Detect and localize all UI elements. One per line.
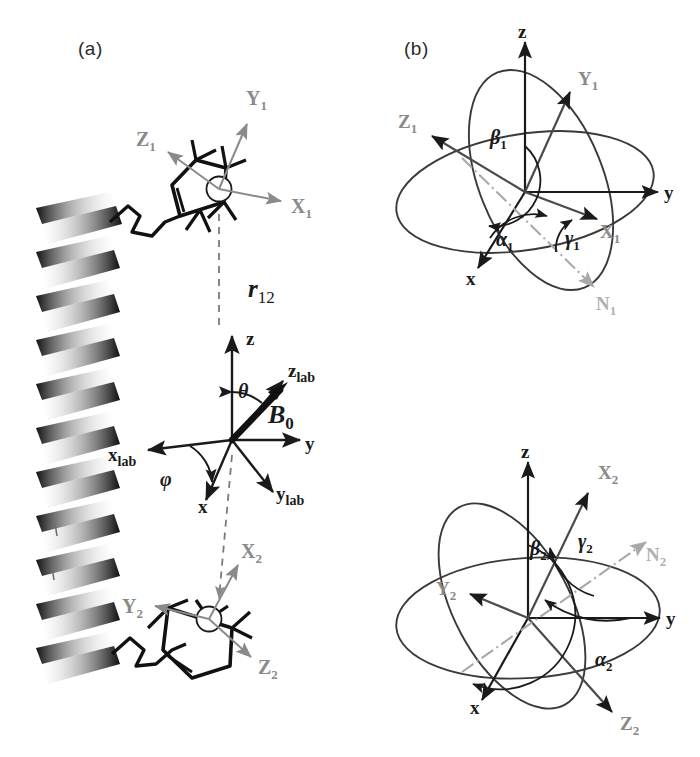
axis-label-b1-y: y bbox=[664, 182, 674, 203]
axis-label-b2-Z2: Z2 bbox=[620, 713, 639, 738]
phi-arc bbox=[190, 446, 212, 482]
axis-label-y-lab: ylab bbox=[276, 483, 304, 508]
axis-label-b2-x: x bbox=[470, 697, 480, 718]
node-line-1 bbox=[462, 158, 594, 287]
axis-label-z: z bbox=[246, 328, 255, 349]
r12-label: r12 bbox=[248, 275, 275, 307]
ellipse-molecular-plane-2 bbox=[408, 480, 616, 732]
euler-frame-2 bbox=[392, 462, 664, 732]
axis-label-y: y bbox=[305, 433, 315, 454]
field-label-B0: B0 bbox=[267, 400, 294, 433]
axis-label-b2-z: z bbox=[521, 441, 530, 462]
axis-label-b2-N2: N2 bbox=[646, 544, 666, 569]
axis-label-X1: X1 bbox=[291, 195, 312, 221]
angle-label-beta2: β2 bbox=[529, 537, 547, 563]
axis-label-X2: X2 bbox=[241, 540, 262, 566]
axis-label-b1-Z1: Z1 bbox=[398, 111, 417, 136]
figure-root: (a) (b) bbox=[0, 0, 700, 757]
angle-label-phi: φ bbox=[160, 468, 172, 491]
nitroxide-label-2 bbox=[112, 565, 252, 678]
axis-label-z-lab: zlab bbox=[288, 360, 315, 385]
axis-label-b2-X2: X2 bbox=[598, 462, 618, 487]
axis-label-x-lab: xlab bbox=[108, 444, 136, 469]
axis-label-b1-Y1: Y1 bbox=[578, 68, 598, 93]
axis-label-Y1: Y1 bbox=[246, 87, 267, 113]
axis-label-Y2: Y2 bbox=[122, 595, 143, 621]
axis-label-Z1: Z1 bbox=[136, 128, 156, 154]
axis-label-b1-z: z bbox=[518, 21, 527, 42]
r12-connector bbox=[219, 214, 232, 598]
angle-label-alpha2: α2 bbox=[595, 648, 613, 674]
angle-label-beta1: β1 bbox=[489, 126, 507, 152]
axis-label-b1-N1: N1 bbox=[596, 293, 616, 318]
angle-label-gamma1: γ1 bbox=[565, 227, 580, 253]
axis-label-b2-y: y bbox=[666, 608, 676, 629]
axis-label-b1-x: x bbox=[466, 268, 476, 289]
axis-label-Z2: Z2 bbox=[258, 656, 278, 682]
axis-label-b1-X1: X1 bbox=[600, 221, 620, 246]
angle-label-alpha1: α1 bbox=[496, 228, 514, 254]
angle-label-gamma2: γ2 bbox=[578, 530, 593, 556]
figure-canvas: X1 Y1 Z1 r12 z y x bbox=[0, 0, 700, 757]
dna-duplex-ribbon bbox=[36, 192, 122, 684]
angle-label-theta: θ bbox=[238, 380, 249, 402]
axis-label-x: x bbox=[198, 496, 208, 517]
euler-frame-1 bbox=[388, 42, 663, 311]
